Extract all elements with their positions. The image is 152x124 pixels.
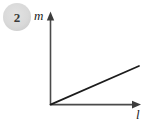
data-line-series <box>51 66 140 105</box>
y-axis-label: m <box>34 9 43 22</box>
x-axis-label: l <box>136 108 140 121</box>
y-axis-arrowhead-icon <box>47 12 54 21</box>
figure-canvas: 2 m l <box>0 0 152 124</box>
plot-area <box>0 0 152 124</box>
